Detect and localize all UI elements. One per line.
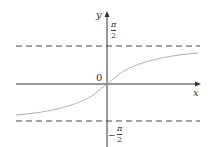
upper-num: π [111, 21, 116, 29]
y-axis-label: y [96, 10, 102, 20]
origin-label: 0 [96, 73, 102, 83]
lower-asymptote-label: π 2 [117, 125, 122, 144]
graph-canvas [0, 0, 213, 147]
x-axis-label: x [193, 88, 199, 98]
arctan-diagram: y x 0 π 2 − π 2 [0, 0, 213, 147]
upper-asymptote-label: π 2 [111, 21, 116, 40]
lower-den: 2 [117, 136, 122, 144]
lower-num: π [117, 125, 122, 133]
lower-sign: − [108, 131, 116, 140]
y-axis-arrow-icon [105, 11, 110, 17]
x-axis-arrow-icon [195, 82, 201, 87]
upper-den: 2 [111, 32, 116, 40]
